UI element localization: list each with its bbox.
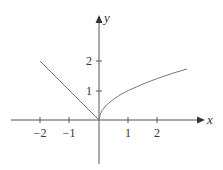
y-tick-label: 1 bbox=[86, 84, 92, 98]
y-tick-label: 2 bbox=[86, 54, 92, 68]
y-axis-arrow-icon bbox=[96, 15, 103, 23]
function-graph: x y −2 −1 1 2 1 2 bbox=[0, 0, 223, 170]
x-axis-label: x bbox=[206, 112, 213, 127]
y-axis-label: y bbox=[102, 10, 110, 25]
x-tick-label: −2 bbox=[34, 126, 47, 140]
x-tick-label: −1 bbox=[63, 126, 76, 140]
x-tick-label: 2 bbox=[154, 126, 160, 140]
sqrt-curve bbox=[99, 69, 187, 120]
x-axis-arrow-icon bbox=[197, 117, 205, 124]
x-tick-label: 1 bbox=[125, 126, 131, 140]
